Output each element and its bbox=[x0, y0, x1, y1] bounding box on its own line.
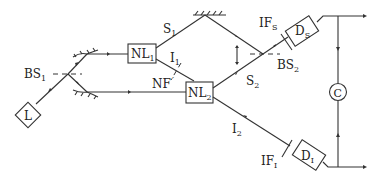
idler-detector-output bbox=[323, 162, 365, 167]
arrow-icon bbox=[363, 165, 367, 169]
arrow-icon bbox=[336, 47, 340, 51]
coincidence-label: C bbox=[334, 87, 342, 100]
nonlinear-crystal-1: NL1 bbox=[128, 44, 156, 63]
nonlinear-crystal-2: NL2 bbox=[186, 82, 213, 103]
ifs-label: IFS bbox=[259, 16, 278, 32]
laser-label: L bbox=[24, 109, 32, 123]
detector-idler: DI bbox=[292, 140, 325, 170]
arrow-icon bbox=[75, 81, 79, 85]
arrow-icon bbox=[336, 133, 340, 137]
mirror-lower-left bbox=[73, 90, 98, 99]
interference-filter-i bbox=[282, 140, 292, 157]
optical-setup-diagram: L BS1 NL1 S1 I1 NF ′ bbox=[0, 0, 372, 178]
arrow-icon bbox=[107, 52, 110, 56]
nf-label: NF bbox=[152, 77, 171, 91]
bs1-label: BS1 bbox=[24, 67, 46, 83]
signal-beam-s1-reflected bbox=[205, 15, 263, 54]
laser-source: L bbox=[15, 102, 40, 127]
s1-label: S1 bbox=[163, 22, 176, 38]
i2-label: I2 bbox=[232, 122, 242, 138]
s2-label: S2 bbox=[246, 74, 259, 90]
arrow-icon bbox=[128, 90, 131, 94]
path-adjust-arrow-icon bbox=[235, 45, 239, 65]
mirror-top bbox=[193, 11, 226, 15]
idler-beam-i2 bbox=[213, 97, 290, 146]
detector-signal: DS bbox=[285, 16, 318, 46]
i1-label: I1 bbox=[170, 51, 180, 67]
signal-detector-output bbox=[317, 16, 365, 22]
coincidence-counter: C bbox=[330, 84, 347, 101]
ifi-label: IFI bbox=[261, 154, 277, 170]
nf-prime: ′ bbox=[172, 76, 174, 86]
bs2-label: BS2 bbox=[277, 58, 299, 74]
arrow-icon bbox=[363, 14, 367, 18]
